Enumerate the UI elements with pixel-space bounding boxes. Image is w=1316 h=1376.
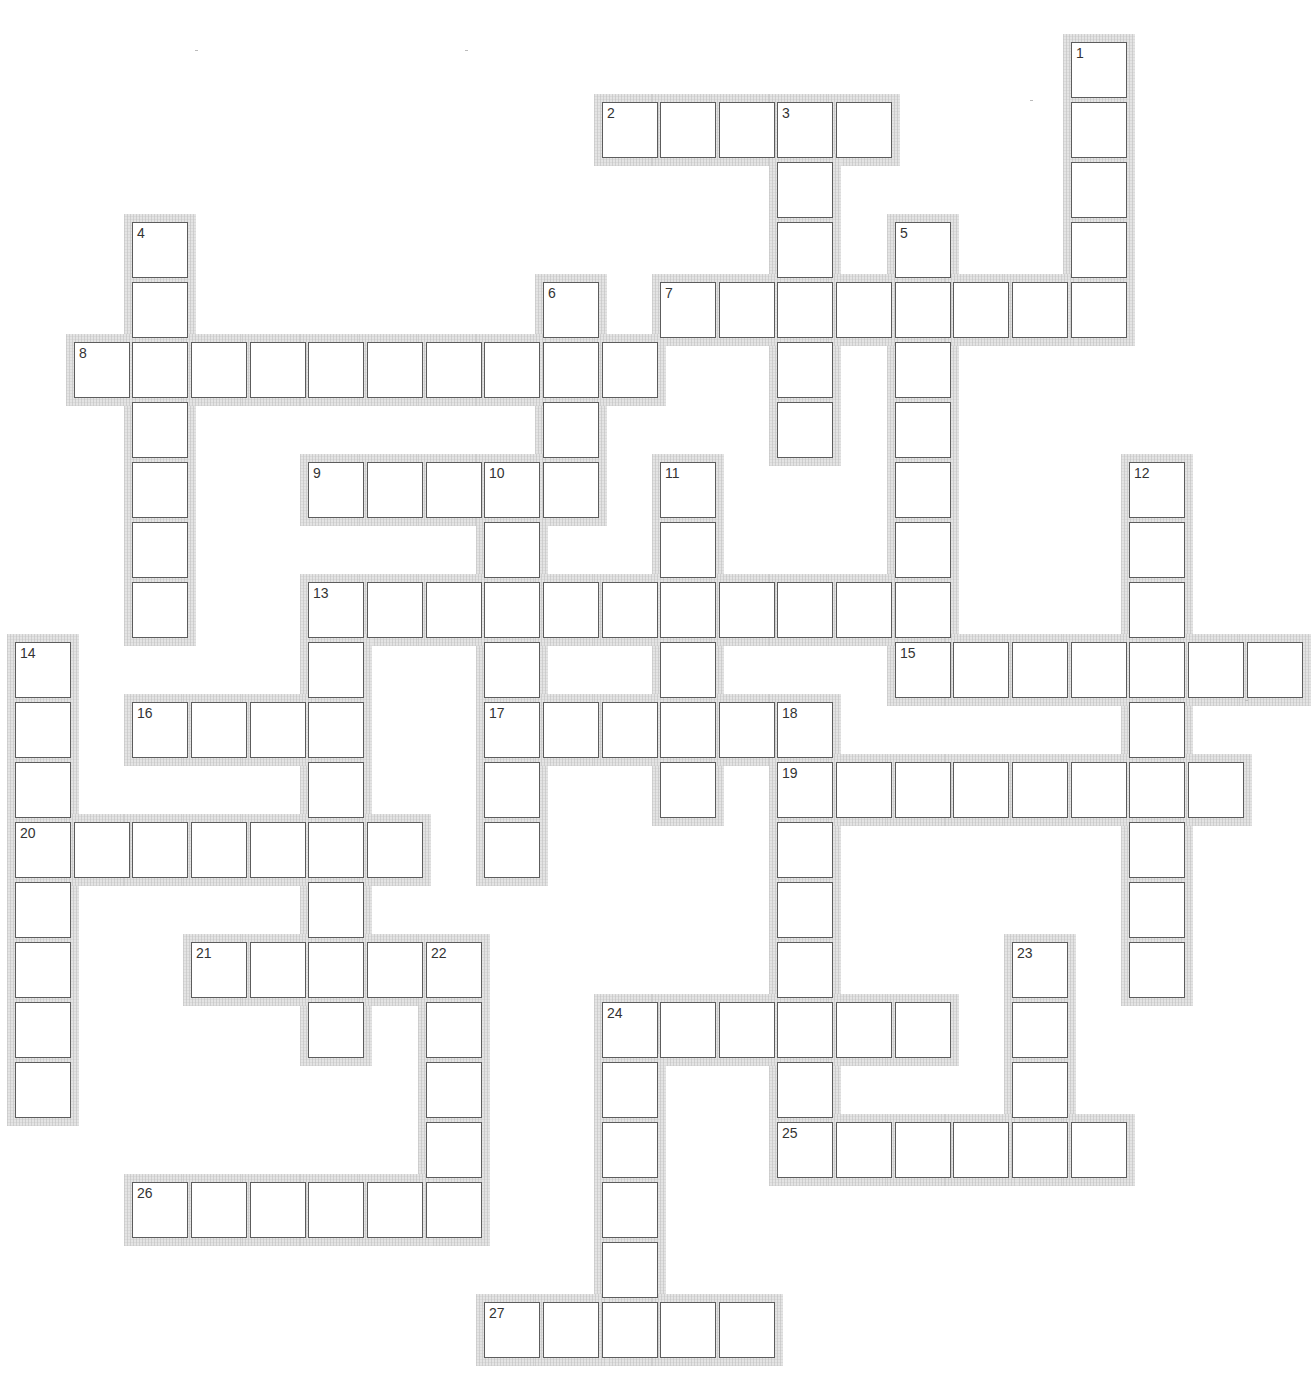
crossword-cell[interactable] [250, 342, 306, 398]
letter-input[interactable] [896, 763, 950, 817]
crossword-cell[interactable] [15, 1002, 71, 1058]
crossword-cell[interactable] [1129, 942, 1185, 998]
letter-input[interactable] [16, 1063, 70, 1117]
letter-input[interactable] [603, 103, 657, 157]
letter-input[interactable] [603, 703, 657, 757]
letter-input[interactable] [1072, 763, 1126, 817]
letter-input[interactable] [778, 1003, 832, 1057]
letter-input[interactable] [1072, 1123, 1126, 1177]
letter-input[interactable] [896, 223, 950, 277]
crossword-cell[interactable] [777, 942, 833, 998]
crossword-cell[interactable] [132, 822, 188, 878]
letter-input[interactable] [720, 1303, 774, 1357]
crossword-cell[interactable]: 6 [543, 282, 599, 338]
letter-input[interactable] [1072, 43, 1126, 97]
letter-input[interactable] [1130, 763, 1184, 817]
crossword-cell[interactable] [308, 882, 364, 938]
crossword-cell[interactable] [132, 582, 188, 638]
letter-input[interactable] [75, 823, 129, 877]
letter-input[interactable] [133, 583, 187, 637]
letter-input[interactable] [661, 463, 715, 517]
crossword-cell[interactable] [895, 402, 951, 458]
letter-input[interactable] [1013, 1123, 1067, 1177]
letter-input[interactable] [544, 583, 598, 637]
letter-input[interactable] [16, 703, 70, 757]
letter-input[interactable] [778, 1123, 832, 1177]
crossword-cell[interactable]: 22 [426, 942, 482, 998]
crossword-cell[interactable] [836, 1122, 892, 1178]
letter-input[interactable] [720, 283, 774, 337]
crossword-cell[interactable] [895, 1002, 951, 1058]
crossword-cell[interactable] [1129, 522, 1185, 578]
crossword-cell[interactable]: 14 [15, 642, 71, 698]
crossword-cell[interactable] [836, 1002, 892, 1058]
letter-input[interactable] [661, 1303, 715, 1357]
letter-input[interactable] [485, 763, 539, 817]
crossword-cell[interactable] [953, 1122, 1009, 1178]
letter-input[interactable] [1189, 763, 1243, 817]
crossword-cell[interactable] [1129, 702, 1185, 758]
crossword-cell[interactable] [660, 1302, 716, 1358]
letter-input[interactable] [896, 583, 950, 637]
crossword-cell[interactable]: 5 [895, 222, 951, 278]
crossword-cell[interactable] [484, 762, 540, 818]
letter-input[interactable] [368, 343, 422, 397]
crossword-cell[interactable]: 26 [132, 1182, 188, 1238]
letter-input[interactable] [368, 943, 422, 997]
crossword-cell[interactable]: 12 [1129, 462, 1185, 518]
letter-input[interactable] [954, 643, 1008, 697]
letter-input[interactable] [133, 463, 187, 517]
letter-input[interactable] [309, 643, 363, 697]
letter-input[interactable] [896, 343, 950, 397]
crossword-cell[interactable] [660, 1002, 716, 1058]
crossword-cell[interactable] [602, 582, 658, 638]
crossword-cell[interactable] [484, 582, 540, 638]
letter-input[interactable] [661, 703, 715, 757]
crossword-cell[interactable]: 27 [484, 1302, 540, 1358]
letter-input[interactable] [192, 703, 246, 757]
letter-input[interactable] [133, 1183, 187, 1237]
letter-input[interactable] [603, 1303, 657, 1357]
crossword-cell[interactable]: 24 [602, 1002, 658, 1058]
crossword-cell[interactable] [367, 342, 423, 398]
letter-input[interactable] [661, 583, 715, 637]
letter-input[interactable] [720, 703, 774, 757]
letter-input[interactable] [896, 283, 950, 337]
crossword-cell[interactable] [895, 582, 951, 638]
letter-input[interactable] [1072, 283, 1126, 337]
crossword-cell[interactable] [1129, 822, 1185, 878]
crossword-cell[interactable] [836, 102, 892, 158]
letter-input[interactable] [661, 643, 715, 697]
letter-input[interactable] [485, 1303, 539, 1357]
crossword-cell[interactable] [15, 702, 71, 758]
crossword-cell[interactable] [602, 1062, 658, 1118]
letter-input[interactable] [485, 823, 539, 877]
letter-input[interactable] [1189, 643, 1243, 697]
letter-input[interactable] [251, 703, 305, 757]
crossword-cell[interactable] [426, 1002, 482, 1058]
crossword-cell[interactable] [1129, 642, 1185, 698]
letter-input[interactable] [309, 343, 363, 397]
letter-input[interactable] [1130, 703, 1184, 757]
letter-input[interactable] [1130, 463, 1184, 517]
letter-input[interactable] [1130, 523, 1184, 577]
letter-input[interactable] [603, 1063, 657, 1117]
crossword-cell[interactable] [1012, 1122, 1068, 1178]
letter-input[interactable] [661, 103, 715, 157]
crossword-cell[interactable] [191, 1182, 247, 1238]
letter-input[interactable] [1013, 643, 1067, 697]
letter-input[interactable] [368, 583, 422, 637]
crossword-cell[interactable] [543, 402, 599, 458]
crossword-cell[interactable]: 1 [1071, 42, 1127, 98]
letter-input[interactable] [837, 103, 891, 157]
letter-input[interactable] [661, 283, 715, 337]
crossword-cell[interactable] [660, 102, 716, 158]
letter-input[interactable] [1072, 223, 1126, 277]
letter-input[interactable] [778, 763, 832, 817]
crossword-cell[interactable] [777, 162, 833, 218]
letter-input[interactable] [720, 103, 774, 157]
crossword-cell[interactable] [484, 522, 540, 578]
crossword-cell[interactable]: 23 [1012, 942, 1068, 998]
crossword-cell[interactable] [191, 342, 247, 398]
letter-input[interactable] [133, 343, 187, 397]
